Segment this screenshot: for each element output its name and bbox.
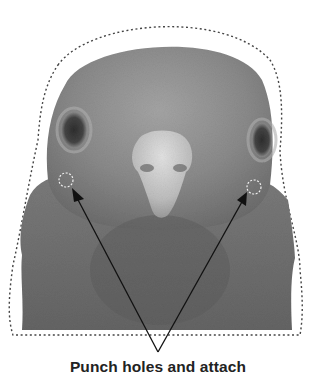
right-eye	[252, 123, 272, 157]
pigeon-mask-illustration	[0, 0, 316, 387]
instruction-caption: Punch holes and attach	[0, 358, 316, 376]
mask-template: Punch holes and attach	[0, 0, 316, 387]
left-eye	[61, 112, 87, 148]
